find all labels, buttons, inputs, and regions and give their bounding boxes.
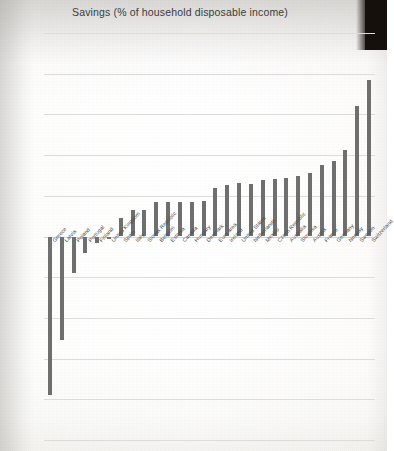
x-axis-tick-label: Italy (134, 232, 145, 244)
gridline (44, 440, 375, 441)
x-axis-labels: GreeceLatviaPolandPortugalFinlandUnited … (44, 33, 375, 440)
chart-title: Savings (% of household disposable incom… (0, 6, 360, 18)
